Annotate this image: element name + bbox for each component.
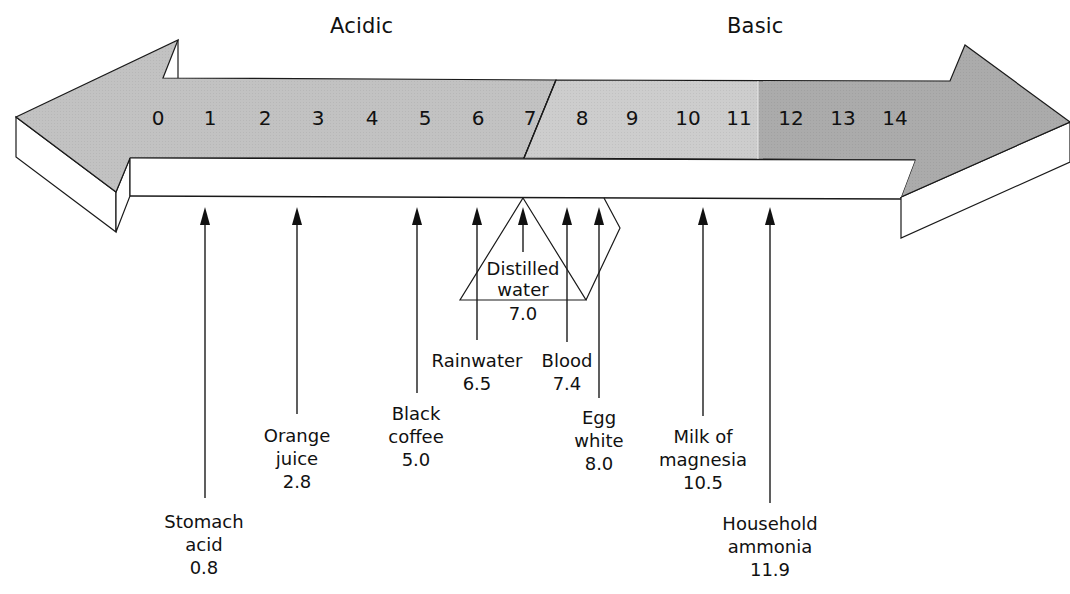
basic-arrow <box>524 45 1070 238</box>
bar-side-face <box>130 158 915 199</box>
acidic-title: Acidic <box>330 14 393 38</box>
tick-7: 7 <box>524 106 537 130</box>
label-stomach-acid: Stomach acid 0.8 <box>164 510 243 579</box>
arrow-rainwater <box>472 207 482 340</box>
tick-8: 8 <box>576 106 589 130</box>
label-egg-white: Egg white 8.0 <box>574 406 623 475</box>
tick-11: 11 <box>726 106 751 130</box>
label-blood: Blood 7.4 <box>542 349 593 395</box>
arrow-distilled-water <box>518 207 528 252</box>
tick-14: 14 <box>882 106 907 130</box>
tick-12: 12 <box>778 106 803 130</box>
arrow-orange-juice <box>292 207 302 414</box>
label-milk-of-magnesia: Milk of magnesia 10.5 <box>659 425 747 494</box>
acidic-arrow <box>16 40 556 232</box>
label-rainwater: Rainwater 6.5 <box>432 349 523 395</box>
arrow-milk-of-magnesia <box>698 207 708 416</box>
arrow-stomach-acid <box>200 207 210 498</box>
tick-9: 9 <box>626 106 639 130</box>
label-household-ammonia: Household ammonia 11.9 <box>722 512 817 581</box>
tick-5: 5 <box>419 106 432 130</box>
egg-white-bracket <box>586 198 620 300</box>
ph-scale-diagram: Acidic Basic 0 1 2 3 4 5 6 7 8 9 10 11 1… <box>0 0 1070 594</box>
tick-6: 6 <box>472 106 485 130</box>
tick-1: 1 <box>204 106 217 130</box>
tick-3: 3 <box>312 106 325 130</box>
basic-title: Basic <box>727 14 784 38</box>
label-distilled-water: Distilled water 7.0 <box>487 258 560 324</box>
tick-2: 2 <box>259 106 272 130</box>
tick-0: 0 <box>152 106 165 130</box>
tick-13: 13 <box>830 106 855 130</box>
tick-10: 10 <box>675 106 700 130</box>
tick-4: 4 <box>366 106 379 130</box>
label-black-coffee: Black coffee 5.0 <box>388 402 443 471</box>
arrow-black-coffee <box>412 207 422 393</box>
arrow-household-ammonia <box>765 207 775 503</box>
label-orange-juice: Orange juice 2.8 <box>264 424 331 493</box>
arrow-egg-white <box>594 207 604 398</box>
